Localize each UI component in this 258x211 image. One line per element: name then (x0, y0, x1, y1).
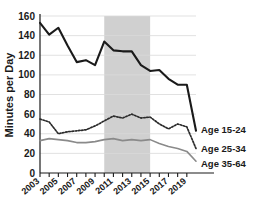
x-tick-label: 2009 (75, 176, 97, 197)
y-tick-label: 40 (24, 128, 36, 139)
x-axis-tick-labels: 200320052007200920112013201520172019 (20, 176, 189, 197)
x-tick-label: 2013 (111, 176, 133, 197)
x-tick-label: 2015 (130, 176, 152, 197)
y-tick-label: 80 (24, 89, 36, 100)
y-axis-tick-labels: 020406080100120140160 (18, 11, 35, 179)
x-tick-label: 2003 (20, 176, 42, 197)
legend-label-1: Age 25-34 (201, 143, 247, 154)
x-axis-ticks (40, 173, 187, 177)
y-tick-label: 100 (18, 69, 35, 80)
y-axis-label: Minutes per Day (3, 52, 15, 138)
y-tick-label: 120 (18, 50, 35, 61)
line-chart: 020406080100120140160 200320052007200920… (0, 0, 258, 211)
x-tick-label: 2011 (93, 176, 114, 196)
y-tick-label: 160 (18, 11, 35, 22)
x-tick-label: 2007 (56, 176, 78, 197)
y-tick-label: 60 (24, 109, 36, 120)
y-tick-label: 140 (18, 30, 35, 41)
legend-label-0: Age 15-24 (201, 124, 247, 135)
legend-label-2: Age 35-64 (201, 158, 247, 169)
y-tick-label: 20 (24, 148, 36, 159)
x-tick-label: 2017 (148, 176, 170, 197)
chart-legend: Age 15-24Age 25-34Age 35-64 (201, 124, 247, 169)
chart-figure: 020406080100120140160 200320052007200920… (0, 0, 258, 211)
x-tick-label: 2019 (166, 176, 188, 197)
x-tick-label: 2005 (38, 176, 60, 197)
